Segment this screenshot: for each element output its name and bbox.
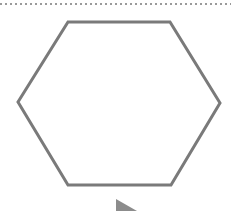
diagram-canvas xyxy=(0,0,231,211)
play-triangle-icon[interactable] xyxy=(116,199,137,211)
hexagon-shape[interactable] xyxy=(18,22,220,185)
